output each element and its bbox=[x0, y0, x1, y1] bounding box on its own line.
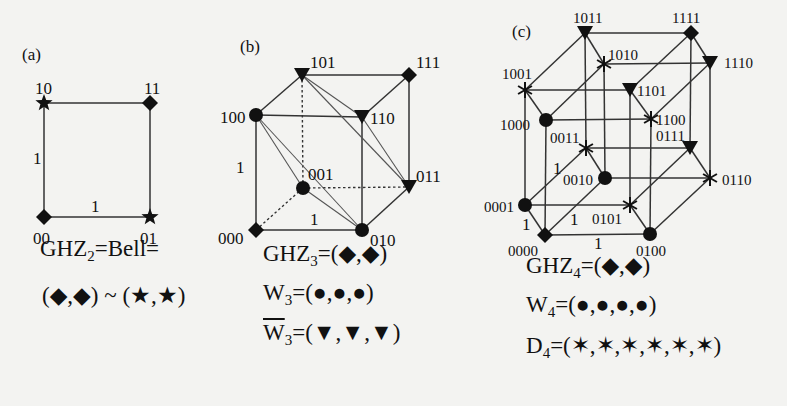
node-label: 1111 bbox=[672, 10, 700, 26]
edge-weight-label: 1 bbox=[236, 158, 245, 177]
graph-edges bbox=[44, 33, 710, 235]
circle-icon bbox=[539, 113, 553, 127]
formula-part: GHZ bbox=[526, 253, 573, 278]
node-label: 0001 bbox=[484, 199, 514, 215]
node-label: 001 bbox=[308, 165, 334, 184]
graph-labels: (a)0001101111(b)000001010011100101110111… bbox=[22, 10, 753, 259]
panel-label-c: (c) bbox=[512, 22, 531, 41]
edge-0100-0110 bbox=[650, 178, 710, 234]
formula-part: =Bell= bbox=[95, 236, 159, 261]
node-label: 100 bbox=[220, 108, 246, 127]
edge-weight-label: 1 bbox=[91, 197, 100, 216]
edge-weight-label: 1 bbox=[594, 234, 603, 253]
formula-part: =(✶,✶,✶,✶,✶,✶) bbox=[550, 333, 721, 358]
formula-b-0: GHZ3=(◆,◆) bbox=[263, 240, 387, 270]
edge-1000-1100 bbox=[546, 119, 651, 120]
edge-1011-0011 bbox=[585, 33, 586, 148]
edge-1101-1111 bbox=[630, 33, 691, 90]
formula-a-0: GHZ2=Bell= bbox=[40, 236, 159, 265]
node-label: 1100 bbox=[656, 112, 685, 128]
edge-1011-1010 bbox=[585, 33, 604, 64]
diamond-icon bbox=[248, 222, 264, 238]
formula-part: =(●,●,●) bbox=[292, 280, 373, 305]
formula-b-1: W3=(●,●,●) bbox=[263, 280, 374, 309]
panel-label-a: (a) bbox=[22, 45, 41, 64]
node-label: 0110 bbox=[722, 172, 751, 188]
circle-icon bbox=[598, 171, 612, 185]
formula-part: GHZ bbox=[40, 236, 87, 261]
edge-1001-1011 bbox=[525, 33, 585, 90]
node-label: 0111 bbox=[656, 128, 685, 144]
formula-part: 4 bbox=[543, 345, 551, 361]
edge-0111-0110 bbox=[690, 148, 710, 178]
edge-010-011 bbox=[362, 187, 409, 230]
edge-1000-0000 bbox=[545, 120, 546, 235]
edge-weight-label: 1 bbox=[310, 210, 319, 229]
circle-icon bbox=[643, 227, 657, 241]
formula-part: W bbox=[263, 320, 285, 345]
formula-part: =(◆,◆) bbox=[318, 241, 387, 266]
edge-weight-label: 1 bbox=[522, 215, 531, 234]
circle-icon bbox=[249, 108, 263, 122]
node-label: 1000 bbox=[500, 117, 530, 133]
edge-weight-label: 1 bbox=[553, 159, 562, 178]
edge-1111-0111 bbox=[690, 33, 691, 148]
node-label: 110 bbox=[370, 109, 395, 128]
edge-100-110 bbox=[256, 115, 362, 117]
edge-1100-0100 bbox=[650, 119, 651, 234]
circle-icon bbox=[355, 223, 369, 237]
edge-001-011 bbox=[303, 187, 409, 188]
edge-100-101 bbox=[256, 75, 302, 115]
panel-label-b: (b) bbox=[240, 37, 260, 56]
formula-part: (◆,◆) ~ (★,★) bbox=[42, 283, 185, 308]
star-icon bbox=[141, 208, 158, 224]
edge-1010-0010 bbox=[604, 64, 605, 178]
formula-part: W bbox=[263, 280, 285, 305]
formula-part: 3 bbox=[310, 253, 318, 269]
node-label: 10 bbox=[35, 79, 52, 98]
node-label: 11 bbox=[144, 79, 160, 98]
formula-c-1: W4=(●,●,●,●) bbox=[526, 292, 656, 321]
diamond-icon bbox=[36, 209, 52, 225]
edge-100-001 bbox=[256, 115, 303, 188]
edge-000-001 bbox=[256, 188, 303, 230]
node-label: 1011 bbox=[573, 10, 602, 26]
node-label: 1101 bbox=[637, 83, 666, 99]
node-label: 1110 bbox=[724, 55, 753, 71]
formula-c-2: D4=(✶,✶,✶,✶,✶,✶) bbox=[526, 332, 721, 362]
edge-1000-1010 bbox=[546, 64, 604, 120]
node-label: 0011 bbox=[550, 130, 579, 146]
circle-icon bbox=[518, 198, 532, 212]
node-label: 000 bbox=[218, 229, 244, 248]
formula-part: =(●,●,●,●) bbox=[555, 292, 656, 317]
edge-101-001 bbox=[302, 75, 303, 188]
formula-part: W bbox=[526, 292, 548, 317]
formula-part: D bbox=[526, 333, 543, 358]
formula-a-1: (◆,◆) ~ (★,★) bbox=[42, 282, 185, 309]
edge-0101-0111 bbox=[630, 148, 690, 205]
edge-weight-label: 1 bbox=[33, 149, 42, 168]
edge-weight-label: 1 bbox=[570, 210, 579, 229]
node-label: 1001 bbox=[502, 66, 532, 82]
node-label: 0010 bbox=[563, 172, 593, 188]
node-label: 0101 bbox=[592, 211, 622, 227]
formula-c-0: GHZ4=(◆,◆) bbox=[526, 252, 650, 282]
node-label: 1010 bbox=[608, 47, 638, 63]
formula-part: 4 bbox=[573, 265, 581, 281]
formula-part: 2 bbox=[87, 248, 95, 264]
node-label: 101 bbox=[310, 53, 336, 72]
formula-b-2: W3=(▼,▼,▼) bbox=[263, 320, 400, 349]
edge-101-110 bbox=[302, 75, 362, 117]
formula-part: =(▼,▼,▼) bbox=[292, 320, 400, 345]
node-label: 111 bbox=[416, 53, 440, 72]
formula-part: GHZ bbox=[263, 241, 310, 266]
formula-part: =(◆,◆) bbox=[581, 253, 650, 278]
node-label: 011 bbox=[416, 167, 441, 186]
